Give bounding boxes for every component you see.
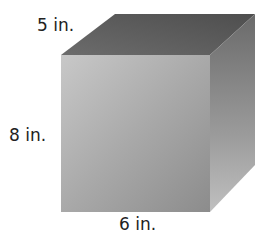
front-face [61,55,210,212]
prism-diagram: 5 in. 8 in. 6 in. [0,0,263,235]
rectangular-prism [0,0,263,235]
depth-label: 5 in. [37,17,74,34]
height-label: 8 in. [9,127,46,144]
width-label: 6 in. [119,216,156,233]
